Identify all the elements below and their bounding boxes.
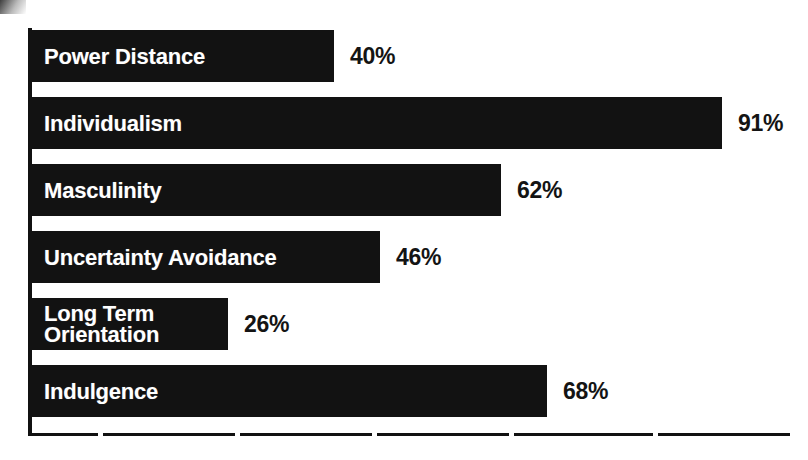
bar-category-label: Long TermOrientation	[44, 298, 159, 350]
bar[interactable]: Power Distance	[30, 30, 334, 82]
bar-row[interactable]: Indulgence68%	[30, 365, 808, 417]
bar-category-label-line: Masculinity	[44, 180, 162, 201]
bar-category-label: Indulgence	[44, 365, 158, 417]
bar[interactable]: Individualism	[30, 97, 722, 149]
bar-row[interactable]: Individualism91%	[30, 97, 808, 149]
bar[interactable]: Uncertainty Avoidance	[30, 231, 380, 283]
bar-chart: Power Distance40%Individualism91%Masculi…	[0, 0, 808, 460]
bar-category-label: Masculinity	[44, 164, 162, 216]
bar-category-label-line: Orientation	[44, 324, 159, 345]
bars-layer: Power Distance40%Individualism91%Masculi…	[0, 0, 808, 460]
bar-value-label: 68%	[563, 365, 608, 417]
bar-value-label: 26%	[244, 298, 289, 350]
bar-category-label: Individualism	[44, 97, 182, 149]
bar-value-label: 62%	[517, 164, 562, 216]
bar-category-label-line: Uncertainty Avoidance	[44, 247, 277, 268]
bar-category-label: Power Distance	[44, 30, 205, 82]
bar[interactable]: Long TermOrientation	[30, 298, 228, 350]
bar-category-label: Uncertainty Avoidance	[44, 231, 277, 283]
bar-value-label: 40%	[350, 30, 395, 82]
bar-category-label-line: Individualism	[44, 113, 182, 134]
bar-category-label-line: Long Term	[44, 303, 159, 324]
bar-value-label: 91%	[738, 97, 783, 149]
bar-row[interactable]: Uncertainty Avoidance46%	[30, 231, 808, 283]
plot-area: Power Distance40%Individualism91%Masculi…	[0, 0, 808, 460]
bar-category-label-line: Power Distance	[44, 46, 205, 67]
bar-row[interactable]: Masculinity62%	[30, 164, 808, 216]
bar-row[interactable]: Power Distance40%	[30, 30, 808, 82]
bar-category-label-line: Indulgence	[44, 381, 158, 402]
bar[interactable]: Masculinity	[30, 164, 501, 216]
bar-value-label: 46%	[396, 231, 441, 283]
bar-row[interactable]: Long TermOrientation26%	[30, 298, 808, 350]
bar[interactable]: Indulgence	[30, 365, 547, 417]
